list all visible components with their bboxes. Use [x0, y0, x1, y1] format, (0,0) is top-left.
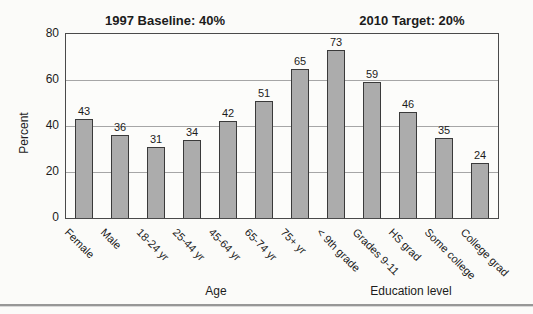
education-group-label: Education level: [370, 284, 451, 298]
y-tick-label-80: 80: [31, 27, 59, 40]
bar-female: [75, 119, 93, 218]
bottom-rule: [0, 304, 533, 307]
category-label: Female: [63, 226, 97, 260]
bar--9th-grade: [327, 50, 345, 218]
bar-value-label: 65: [285, 55, 315, 67]
bar-some-college: [435, 138, 453, 219]
bar-65-74-yr: [255, 101, 273, 218]
bar-75-yr: [291, 69, 309, 219]
bar-college-grad: [471, 163, 489, 218]
bar-value-label: 51: [249, 87, 279, 99]
category-label: 75+ yr: [279, 226, 309, 256]
y-tick-label-40: 40: [31, 119, 59, 132]
gridline-60: [66, 80, 498, 81]
category-label: Male: [99, 226, 124, 251]
bar-hs-grad: [399, 112, 417, 218]
chart-page: 1997 Baseline: 40% 2010 Target: 20% Perc…: [0, 0, 533, 314]
bar-value-label: 36: [105, 121, 135, 133]
y-tick-label-20: 20: [31, 165, 59, 178]
category-label: 65-74 yr: [243, 226, 280, 263]
category-label: 45-64 yr: [207, 226, 244, 263]
y-tick-label-0: 0: [31, 211, 59, 224]
baseline-annotation: 1997 Baseline: 40%: [105, 13, 225, 28]
bar-45-64-yr: [219, 121, 237, 218]
bar-value-label: 73: [321, 36, 351, 48]
bar-value-label: 46: [393, 98, 423, 110]
bar-value-label: 31: [141, 133, 171, 145]
bar-25-44-yr: [183, 140, 201, 218]
bar-value-label: 59: [357, 68, 387, 80]
category-label: HS grad: [387, 226, 424, 263]
category-label: 25-44 yr: [171, 226, 208, 263]
bar-value-label: 35: [429, 124, 459, 136]
y-axis-title: Percent: [17, 112, 31, 153]
bar-grades-9-11: [363, 82, 381, 218]
bar-value-label: 43: [69, 105, 99, 117]
category-label: 18-24 yr: [135, 226, 172, 263]
y-tick-label-60: 60: [31, 73, 59, 86]
bar-value-label: 34: [177, 126, 207, 138]
target-annotation: 2010 Target: 20%: [359, 13, 464, 28]
bar-value-label: 42: [213, 107, 243, 119]
bar-18-24-yr: [147, 147, 165, 218]
bar-value-label: 24: [465, 149, 495, 161]
gridline-20: [66, 172, 498, 173]
bar-male: [111, 135, 129, 218]
age-group-label: Age: [205, 284, 226, 298]
plot-area: 433631344251657359463524: [65, 33, 499, 219]
